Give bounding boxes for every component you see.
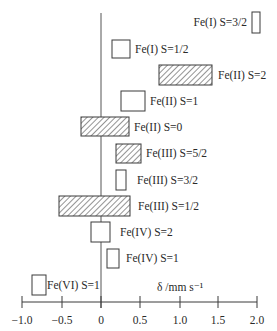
tick-label: 1.0	[173, 314, 188, 326]
range-bar	[91, 222, 110, 242]
range-label: Fe(IV) S=1	[126, 252, 179, 265]
tick-label: −0.5	[52, 314, 73, 326]
range-bar	[107, 249, 119, 268]
range-bar	[159, 65, 212, 85]
range-bar	[121, 91, 145, 111]
range-label: Fe(III) S=3/2	[137, 174, 198, 187]
range-label: Fe(II) S=0	[134, 121, 183, 134]
tick-label: 0	[98, 314, 104, 326]
range-label: Fe(II) S=1	[150, 95, 199, 108]
tick-label: −1.0	[12, 314, 33, 326]
range-bar	[81, 117, 129, 136]
tick-label: 1.5	[211, 314, 226, 326]
range-bar	[116, 144, 141, 163]
range-label: Fe(VI) S=1	[47, 279, 100, 292]
range-bar	[116, 170, 126, 190]
range-labels: Fe(I) S=3/2 Fe(I) S=1/2 Fe(II) S=2 Fe(II…	[47, 16, 267, 292]
range-bar	[112, 40, 130, 58]
range-label: Fe(II) S=2	[218, 69, 267, 82]
range-label: Fe(I) S=3/2	[194, 16, 248, 29]
tick-label: 0.5	[133, 314, 148, 326]
tick-label: 2.0	[250, 314, 265, 326]
range-label: Fe(III) S=5/2	[146, 147, 207, 160]
range-label: Fe(III) S=1/2	[138, 200, 199, 213]
range-bar	[59, 196, 130, 216]
range-label: Fe(I) S=1/2	[135, 43, 189, 56]
range-bar	[252, 12, 260, 33]
x-axis-label: δ /mm s⁻¹	[157, 281, 204, 293]
isomer-shift-chart: −1.0 −0.5 0 0.5 1.0 1.5 2.0 δ /mm s⁻¹ Fe…	[0, 0, 277, 331]
range-bar	[32, 275, 46, 295]
range-label: Fe(IV) S=2	[120, 226, 173, 239]
